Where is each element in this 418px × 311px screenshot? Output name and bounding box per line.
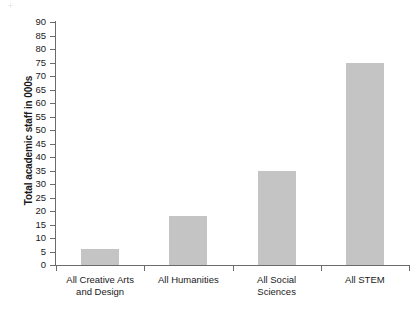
- y-axis-tick-label: 40: [6, 152, 46, 162]
- bar: [81, 249, 119, 265]
- y-axis-tick-label: 10: [6, 233, 46, 243]
- bar: [346, 63, 384, 266]
- plot-area: [56, 22, 409, 265]
- bar: [169, 216, 207, 265]
- y-axis-tick-label: 50: [6, 125, 46, 135]
- y-axis-tick-label: 80: [6, 44, 46, 54]
- y-axis-tick-label: 85: [6, 31, 46, 41]
- x-axis-tick: [321, 266, 322, 271]
- y-axis-tick-label: 60: [6, 98, 46, 108]
- y-axis-tick-label: 5: [6, 247, 46, 257]
- y-axis-tick-label: 55: [6, 112, 46, 122]
- y-axis-tick-label: 65: [6, 85, 46, 95]
- y-axis-tick-label: 30: [6, 179, 46, 189]
- x-axis-label: All Social Sciences: [233, 274, 321, 297]
- x-axis-tick: [144, 266, 145, 271]
- y-axis-tick-label: 35: [6, 166, 46, 176]
- x-axis-label: All STEM: [321, 274, 409, 286]
- y-axis-tick-label: 75: [6, 58, 46, 68]
- x-axis-label: All Humanities: [144, 274, 232, 286]
- y-axis-tick-label: 0: [6, 260, 46, 270]
- y-axis-tick-label: 15: [6, 220, 46, 230]
- y-axis-tick-label: 90: [6, 17, 46, 27]
- x-axis-tick: [56, 266, 57, 271]
- y-axis-tick-label: 70: [6, 71, 46, 81]
- y-axis-tick-label: 20: [6, 206, 46, 216]
- y-axis-tick-label: 25: [6, 193, 46, 203]
- bar-chart: Total academic staff in 000s 90858075706…: [0, 0, 418, 311]
- corner-artifact-icon: [8, 3, 13, 8]
- x-axis-tick: [409, 266, 410, 271]
- y-axis-tick-label: 45: [6, 139, 46, 149]
- x-axis-tick: [233, 266, 234, 271]
- bar: [258, 171, 296, 266]
- x-axis-label: All Creative Arts and Design: [56, 274, 144, 297]
